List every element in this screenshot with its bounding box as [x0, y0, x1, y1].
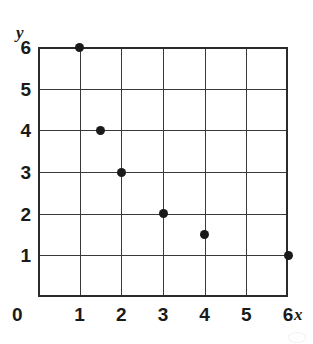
- origin-tick-label: 0: [12, 305, 23, 324]
- data-point: [96, 126, 105, 135]
- data-point: [200, 230, 209, 239]
- grid-line-vertical: [246, 47, 247, 297]
- data-point: [117, 168, 126, 177]
- y-tick-label: 2: [20, 204, 31, 223]
- x-tick-label: 4: [199, 305, 210, 324]
- grid-line-vertical: [205, 47, 206, 297]
- x-tick-label: 5: [241, 305, 252, 324]
- y-tick-label: 6: [20, 38, 31, 57]
- y-tick-label: 5: [20, 79, 31, 98]
- y-axis-tick-labels: 123456: [0, 47, 31, 297]
- x-tick-label: 6: [283, 305, 294, 324]
- x-axis-label: x: [294, 306, 303, 323]
- data-point: [75, 43, 84, 52]
- scatter-plot-figure: y x 0 123456 123456: [0, 0, 313, 344]
- x-axis-tick-labels: 123456: [38, 305, 288, 331]
- data-point: [159, 209, 168, 218]
- plot-frame-bottom: [38, 295, 288, 297]
- y-tick-label: 4: [20, 121, 31, 140]
- x-tick-label: 3: [158, 305, 169, 324]
- data-point: [284, 251, 293, 260]
- y-tick-label: 1: [20, 246, 31, 265]
- page-artifact: [288, 332, 306, 343]
- plot-frame-left: [38, 47, 40, 297]
- plot-area: [38, 47, 288, 297]
- grid-line-vertical: [163, 47, 164, 297]
- grid-line-vertical: [80, 47, 81, 297]
- x-tick-label: 2: [116, 305, 127, 324]
- x-tick-label: 1: [74, 305, 85, 324]
- y-tick-label: 3: [20, 163, 31, 182]
